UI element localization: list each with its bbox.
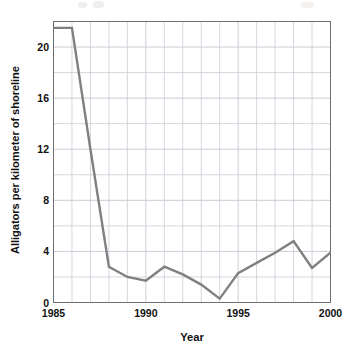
chart-figure: Alligators per kilometer of shoreline 04… (0, 0, 351, 360)
x-tick-label: 1985 (42, 307, 65, 319)
minor-gridlines (54, 22, 331, 303)
x-tick-label: 1995 (226, 307, 249, 319)
x-axis-title: Year (53, 331, 331, 343)
plot-frame (54, 22, 331, 303)
plot-area (0, 0, 351, 360)
x-tick-label: 2000 (319, 307, 342, 319)
x-tick-label: 1990 (134, 307, 157, 319)
data-series-line (54, 28, 331, 299)
major-gridlines (54, 22, 331, 303)
